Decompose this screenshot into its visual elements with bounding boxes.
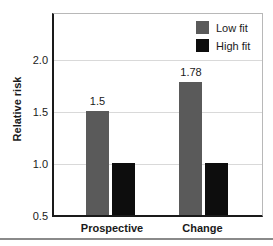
bar-value-prospective-low-fit: 1.5 bbox=[80, 96, 115, 107]
legend-item-low-fit[interactable]: Low fit bbox=[196, 21, 250, 34]
x-tick-label-prospective: Prospective bbox=[62, 222, 162, 234]
bar-change-high-fit[interactable] bbox=[205, 163, 228, 215]
x-axis-tick-labels: Prospective Change bbox=[52, 220, 263, 240]
bar-prospective-low-fit[interactable] bbox=[86, 111, 109, 215]
bar-change-low-fit[interactable] bbox=[179, 82, 202, 215]
bar-chart-figure: Relative risk 2.0 1.5 1.0 0.5 1.5 1.78 bbox=[0, 0, 273, 246]
legend-label-low-fit: Low fit bbox=[216, 22, 248, 34]
legend: Low fit High fit bbox=[196, 21, 250, 52]
y-tick-label-0-5: 0.5 bbox=[22, 211, 48, 222]
bar-prospective-high-fit[interactable] bbox=[112, 163, 135, 215]
y-tick-label-1-5: 1.5 bbox=[22, 107, 48, 118]
y-tick-label-1-0: 1.0 bbox=[22, 159, 48, 170]
x-tick-label-change: Change bbox=[165, 222, 240, 234]
legend-item-high-fit[interactable]: High fit bbox=[196, 39, 250, 52]
bar-value-change-low-fit: 1.78 bbox=[171, 67, 211, 78]
plot-area: 1.5 1.78 Low fit High fit bbox=[52, 13, 263, 217]
legend-label-high-fit: High fit bbox=[216, 40, 250, 52]
y-tick-label-2-0: 2.0 bbox=[22, 55, 48, 66]
y-axis-tick-labels: 2.0 1.5 1.0 0.5 bbox=[22, 0, 48, 246]
legend-swatch-low-fit-icon bbox=[196, 21, 209, 34]
legend-swatch-high-fit-icon bbox=[196, 39, 209, 52]
bottom-divider bbox=[0, 238, 273, 240]
